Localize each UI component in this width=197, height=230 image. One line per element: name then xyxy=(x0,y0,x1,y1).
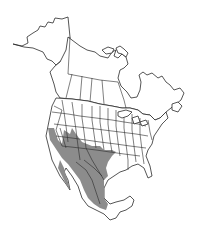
newfoundland-outline xyxy=(172,102,182,112)
arctic-island-outline xyxy=(102,47,114,54)
range-map xyxy=(0,0,197,230)
north-america-map xyxy=(0,0,197,230)
alaska-outline xyxy=(13,17,70,65)
